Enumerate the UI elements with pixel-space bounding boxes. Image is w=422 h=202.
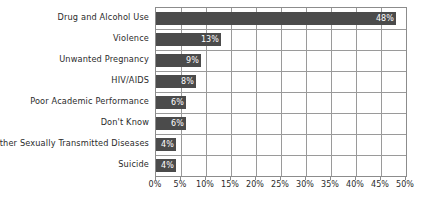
x-axis-tick-label: 5% <box>174 181 187 189</box>
x-axis-tick-label: 20% <box>246 181 264 189</box>
x-axis-tick-label: 30% <box>296 181 314 189</box>
bar-value-label: 8% <box>181 78 194 86</box>
bar-value-label: 9% <box>186 57 199 65</box>
bar[interactable]: 4% <box>156 138 176 151</box>
bar[interactable]: 6% <box>156 117 186 130</box>
x-axis-tick-label: 50% <box>396 181 414 189</box>
x-axis-tick-label: 40% <box>346 181 364 189</box>
category-label-row: Suicide <box>0 154 152 175</box>
category-label: HIV/AIDS <box>111 76 149 84</box>
category-label: Poor Academic Performance <box>30 97 149 105</box>
bar[interactable]: 9% <box>156 54 201 67</box>
bar-value-label: 48% <box>376 15 394 23</box>
category-axis-labels: Drug and Alcohol UseViolenceUnwanted Pre… <box>0 7 152 175</box>
category-label-row: Poor Academic Performance <box>0 91 152 112</box>
bar-row: 48% <box>156 8 406 29</box>
bar[interactable]: 4% <box>156 159 176 172</box>
x-axis-tick-label: 35% <box>321 181 339 189</box>
category-label: Drug and Alcohol Use <box>58 13 149 21</box>
x-axis-tick-label: 15% <box>221 181 239 189</box>
category-label: Other Sexually Transmitted Diseases <box>0 139 149 147</box>
plot-area: 48%13%9%8%6%6%4%4% <box>155 7 407 177</box>
bar-value-label: 13% <box>201 36 219 44</box>
bar-value-label: 4% <box>161 141 174 149</box>
bar-row: 8% <box>156 71 406 92</box>
bar-row: 4% <box>156 134 406 155</box>
category-label-row: HIV/AIDS <box>0 70 152 91</box>
bar-series: 48%13%9%8%6%6%4%4% <box>156 8 406 176</box>
bar-row: 4% <box>156 155 406 176</box>
bar-value-label: 4% <box>161 162 174 170</box>
horizontal-bar-chart: Drug and Alcohol UseViolenceUnwanted Pre… <box>0 0 422 202</box>
category-label: Suicide <box>118 160 149 168</box>
bar-value-label: 6% <box>171 120 184 128</box>
bar-row: 6% <box>156 113 406 134</box>
category-label-row: Other Sexually Transmitted Diseases <box>0 133 152 154</box>
category-label-row: Don't Know <box>0 112 152 133</box>
bar-row: 13% <box>156 29 406 50</box>
x-axis-tick-label: 25% <box>271 181 289 189</box>
x-axis-tick-label: 10% <box>196 181 214 189</box>
bar-value-label: 6% <box>171 99 184 107</box>
category-label: Don't Know <box>101 118 149 126</box>
category-label-row: Drug and Alcohol Use <box>0 7 152 28</box>
x-axis-tick-label: 0% <box>149 181 162 189</box>
bar-row: 9% <box>156 50 406 71</box>
x-axis: 0%5%10%15%20%25%30%35%40%45%50% <box>155 176 405 200</box>
x-axis-tick-label: 45% <box>371 181 389 189</box>
category-label-row: Violence <box>0 28 152 49</box>
category-label-row: Unwanted Pregnancy <box>0 49 152 70</box>
bar[interactable]: 13% <box>156 33 221 46</box>
bar[interactable]: 8% <box>156 75 196 88</box>
bar[interactable]: 6% <box>156 96 186 109</box>
bar-row: 6% <box>156 92 406 113</box>
bar[interactable]: 48% <box>156 12 396 25</box>
category-label: Violence <box>113 34 149 42</box>
category-label: Unwanted Pregnancy <box>59 55 149 63</box>
